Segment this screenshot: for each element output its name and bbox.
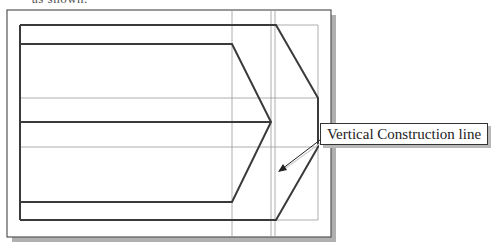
callout-label: Vertical Construction line: [320, 123, 488, 145]
